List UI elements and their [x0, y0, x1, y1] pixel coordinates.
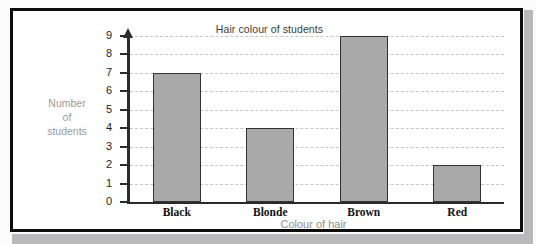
- y-axis-title: Number of students: [28, 96, 106, 138]
- y-tick-label: 4: [98, 120, 112, 135]
- bar-black: [153, 73, 201, 202]
- bar-series: [130, 30, 504, 202]
- y-tick-mark: [120, 53, 128, 55]
- category-label-brown: Brown: [317, 206, 411, 218]
- y-tick-mark: [120, 127, 128, 129]
- y-tick-mark: [120, 164, 128, 166]
- y-axis-title-line-2: of: [28, 110, 106, 124]
- y-tick-mark: [120, 146, 128, 148]
- chart-screenshot: Hair colour of students Number of studen…: [0, 0, 536, 244]
- y-tick-label: 0: [98, 194, 112, 209]
- y-tick-label: 5: [98, 102, 112, 117]
- y-tick-label: 2: [98, 157, 112, 172]
- y-tick-mark: [120, 90, 128, 92]
- y-tick-label: 6: [98, 83, 112, 98]
- plot-area: 0123456789: [116, 30, 511, 210]
- category-label-red: Red: [411, 206, 505, 218]
- y-tick-label: 9: [98, 28, 112, 43]
- category-label-black: Black: [130, 206, 224, 218]
- bar-blonde: [246, 128, 294, 202]
- y-tick-label: 7: [98, 65, 112, 80]
- y-tick-mark: [120, 72, 128, 74]
- y-tick-mark: [120, 201, 128, 203]
- y-tick-label: 3: [98, 139, 112, 154]
- card-shadow-bottom: [12, 234, 533, 244]
- bar-brown: [340, 36, 388, 202]
- y-tick-label: 1: [98, 176, 112, 191]
- x-axis-line: [127, 202, 504, 204]
- y-axis-title-line-3: students: [28, 124, 106, 138]
- category-label-blonde: Blonde: [224, 206, 318, 218]
- y-tick-mark: [120, 35, 128, 37]
- y-tick-mark: [120, 183, 128, 185]
- y-axis-title-line-1: Number: [28, 96, 106, 110]
- bar-red: [433, 165, 481, 202]
- y-tick-label: 8: [98, 46, 112, 61]
- y-tick-mark: [120, 109, 128, 111]
- card-shadow-right: [524, 10, 533, 244]
- x-axis-title: Colour of hair: [116, 218, 511, 230]
